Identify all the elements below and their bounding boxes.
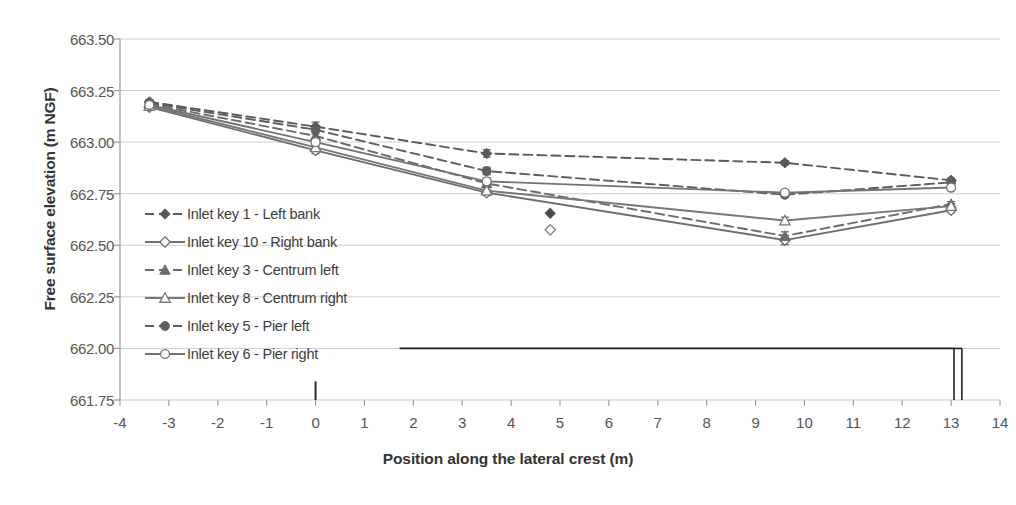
legend-label: Inlet key 8 - Centrum right	[187, 290, 347, 306]
x-axis-tick-label: 14	[980, 414, 1016, 431]
legend-item-2[interactable]: Inlet key 3 - Centrum left	[143, 256, 393, 284]
x-axis-tick-label: 5	[540, 414, 580, 431]
x-axis-tick-label: 2	[393, 414, 433, 431]
x-axis-tick-label: -1	[247, 414, 287, 431]
data-point-circle-open	[161, 350, 170, 359]
legend-label: Inlet key 5 - Pier left	[187, 318, 309, 334]
legend-symbol-diamond-filled-icon	[143, 205, 187, 223]
data-point-diamond-filled	[545, 208, 555, 218]
data-point-circle-open	[780, 188, 789, 197]
legend-item-1[interactable]: Inlet key 10 - Right bank	[143, 228, 393, 256]
data-point-diamond-open	[160, 237, 170, 247]
x-axis-tick-label: 10	[784, 414, 824, 431]
legend-label: Inlet key 10 - Right bank	[187, 234, 337, 250]
data-point-circle-open	[482, 177, 491, 186]
chart-legend: Inlet key 1 - Left bankInlet key 10 - Ri…	[143, 200, 393, 368]
x-axis-tick-label: -4	[100, 414, 140, 431]
x-axis-tick-label: -2	[198, 414, 238, 431]
legend-symbol-circle-filled-icon	[143, 317, 187, 335]
legend-symbol-circle-open-icon	[143, 345, 187, 363]
legend-item-4[interactable]: Inlet key 5 - Pier left	[143, 312, 393, 340]
data-point-circle-filled	[482, 167, 491, 176]
data-point-circle-open	[311, 138, 320, 147]
legend-item-3[interactable]: Inlet key 8 - Centrum right	[143, 284, 393, 312]
legend-item-0[interactable]: Inlet key 1 - Left bank	[143, 200, 393, 228]
data-point-diamond-filled	[780, 158, 790, 168]
legend-symbol-triangle-filled-icon	[143, 261, 187, 279]
x-axis-tick-label: 3	[442, 414, 482, 431]
chart-root: Free surface elevation (m NGF) 661.75662…	[0, 0, 1016, 505]
x-axis-tick-label: 0	[296, 414, 336, 431]
legend-label: Inlet key 6 - Pier right	[187, 346, 318, 362]
legend-label: Inlet key 3 - Centrum left	[187, 262, 338, 278]
x-axis-tick-label: 7	[638, 414, 678, 431]
series-line	[149, 102, 951, 180]
data-point-circle-open	[145, 101, 154, 110]
x-axis-tick-label: 11	[833, 414, 873, 431]
series-5	[145, 101, 956, 198]
isolated-points	[545, 208, 555, 235]
data-point-diamond-open	[545, 225, 555, 235]
x-axis-tick-label: 8	[687, 414, 727, 431]
x-axis-tick-label: -3	[149, 414, 189, 431]
x-axis-title: Position along the lateral crest (m)	[0, 450, 1016, 468]
data-point-circle-filled	[161, 322, 170, 331]
x-axis-tick-label: 9	[736, 414, 776, 431]
x-axis-tick-label: 6	[589, 414, 629, 431]
data-point-diamond-filled	[160, 209, 170, 219]
legend-label: Inlet key 1 - Left bank	[187, 206, 320, 222]
x-axis-tick-label: 4	[491, 414, 531, 431]
x-axis-tick-label: 13	[931, 414, 971, 431]
data-point-circle-filled	[311, 125, 320, 134]
x-axis-tick-label: 12	[882, 414, 922, 431]
legend-symbol-triangle-open-icon	[143, 289, 187, 307]
series-line	[149, 103, 951, 195]
series-0	[144, 97, 956, 186]
series-line	[149, 105, 951, 193]
legend-item-5[interactable]: Inlet key 6 - Pier right	[143, 340, 393, 368]
x-axis-tick-label: 1	[344, 414, 384, 431]
legend-symbol-diamond-open-icon	[143, 233, 187, 251]
data-point-circle-open	[947, 183, 956, 192]
